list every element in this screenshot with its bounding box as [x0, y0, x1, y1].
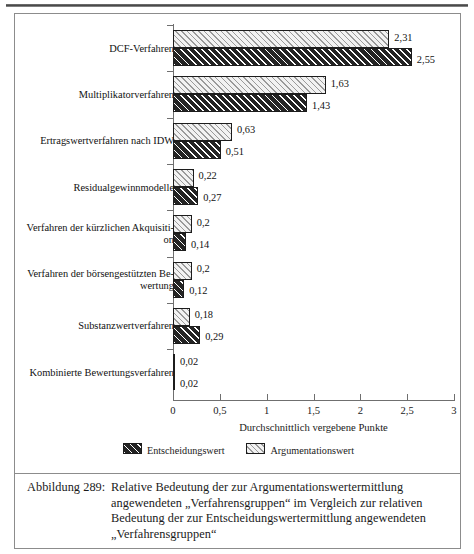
bar-argumentationswert [173, 215, 192, 233]
x-axis-tick-label: 1,5 [294, 405, 334, 416]
bar-entscheidungswert [173, 187, 198, 205]
bar-entscheidungswert [173, 94, 307, 112]
bar-argumentationswert [173, 262, 192, 280]
bar-entscheidungswert [173, 326, 200, 344]
legend-swatch-light [246, 443, 265, 454]
x-axis-title: Durchschnittlich vergebene Punkte [173, 422, 454, 433]
caption-line: angewendeten „Verfahrensgruppen“ im Verg… [111, 496, 451, 512]
caption: Abbildung 289: Relative Bedeutung der zu… [27, 480, 451, 542]
x-axis-tick [454, 394, 455, 401]
y-axis-tick [167, 118, 174, 119]
legend-item: Argumentationswert [246, 443, 354, 456]
category-label: DCF-Verfahren [4, 43, 174, 55]
figure-page: Durchschnittlich vergebene Punkte 00,511… [0, 0, 474, 554]
y-axis-tick [167, 303, 174, 304]
legend-item: Entscheidungswert [123, 443, 225, 456]
bar-entscheidungswert [173, 372, 175, 390]
bar-value-label-argumentationswert: 0,2 [197, 263, 210, 274]
category-label-line: Kombinierte Bewertungsverfahren [4, 367, 174, 379]
bar-entscheidungswert [173, 280, 184, 298]
category-label: Ertragswertverfahren nach IDW [4, 135, 174, 147]
bar-argumentationswert [173, 30, 389, 48]
category-label: Verfahren der börsengestützten Be-wertun… [4, 268, 174, 292]
x-axis-tick-label: 0,5 [200, 405, 240, 416]
bar-value-label-entscheidungswert: 0,29 [205, 331, 223, 342]
caption-line: Relative Bedeutung der zur Argumentation… [111, 480, 451, 496]
caption-label: Abbildung 289: [27, 480, 105, 494]
bar-value-label-entscheidungswert: 0,12 [189, 285, 207, 296]
category-label-line: on [4, 234, 174, 246]
x-axis-tick-label: 3 [434, 405, 474, 416]
category-label: Multiplikatorverfahren [4, 89, 174, 101]
legend-swatch-dark [123, 443, 142, 454]
category-label: Substanzwertverfahren [4, 320, 174, 332]
x-axis-tick [314, 394, 315, 401]
x-axis-tick [173, 394, 174, 401]
category-label: Verfahren der kürzlichen Akquisiti-on [4, 222, 174, 246]
y-axis-tick [167, 210, 174, 211]
category-label-line: Ertragswertverfahren nach IDW [4, 135, 174, 147]
x-axis-tick [220, 394, 221, 401]
bar-value-label-entscheidungswert: 0,51 [226, 146, 244, 157]
y-axis-tick [167, 257, 174, 258]
chart-frame: Durchschnittlich vergebene Punkte 00,511… [14, 13, 461, 474]
caption-frame: Abbildung 289: Relative Bedeutung der zu… [14, 474, 461, 549]
y-axis-tick [167, 71, 174, 72]
category-label-line: wertung [4, 280, 174, 292]
x-axis-tick-label: 1 [247, 405, 287, 416]
x-axis-tick [267, 394, 268, 401]
category-label-line: DCF-Verfahren [4, 43, 174, 55]
bar-argumentationswert [173, 169, 194, 187]
y-axis-tick [167, 25, 174, 26]
legend-label: Entscheidungswert [147, 445, 225, 456]
bar-value-label-argumentationswert: 2,31 [394, 32, 412, 43]
category-label: Kombinierte Bewertungsverfahren [4, 367, 174, 379]
bar-chart-plot: Durchschnittlich vergebene Punkte 00,511… [15, 14, 462, 475]
bar-value-label-entscheidungswert: 0,27 [203, 192, 221, 203]
page-header-rule [6, 4, 468, 7]
bar-entscheidungswert [173, 141, 221, 159]
bar-argumentationswert [173, 76, 326, 94]
bar-value-label-entscheidungswert: 1,43 [312, 100, 330, 111]
x-axis-tick [407, 394, 408, 401]
y-axis-tick [167, 164, 174, 165]
x-axis-tick-label: 0 [153, 405, 193, 416]
bar-argumentationswert [173, 123, 232, 141]
bar-value-label-entscheidungswert: 0,02 [180, 378, 198, 389]
x-axis-tick-label: 2,5 [387, 405, 427, 416]
category-label: Residualgewinnmodelle [4, 182, 174, 194]
bar-entscheidungswert [173, 48, 412, 66]
bar-value-label-argumentationswert: 0,22 [199, 170, 217, 181]
x-axis-tick-label: 2 [340, 405, 380, 416]
bar-value-label-argumentationswert: 0,2 [197, 217, 210, 228]
bar-entscheidungswert [173, 233, 186, 251]
y-axis-tick [167, 349, 174, 350]
category-label-line: Residualgewinnmodelle [4, 182, 174, 194]
chart-legend: EntscheidungswertArgumentationswert [15, 443, 462, 456]
caption-line: Bedeutung der zur Entscheidungswertermit… [111, 511, 451, 527]
legend-label: Argumentationswert [270, 445, 354, 456]
bar-argumentationswert [173, 354, 175, 372]
bar-value-label-argumentationswert: 0,18 [195, 309, 213, 320]
category-label-line: Multiplikatorverfahren [4, 89, 174, 101]
category-label-line: Substanzwertverfahren [4, 320, 174, 332]
bar-argumentationswert [173, 308, 190, 326]
bar-value-label-argumentationswert: 0,02 [180, 356, 198, 367]
caption-line: „Verfahrensgruppen“ [111, 527, 451, 543]
caption-body: Relative Bedeutung der zur Argumentation… [111, 480, 451, 542]
category-label-line: Verfahren der börsengestützten Be- [4, 268, 174, 280]
bar-value-label-argumentationswert: 0,63 [237, 124, 255, 135]
bar-value-label-entscheidungswert: 2,55 [417, 54, 435, 65]
category-label-line: Verfahren der kürzlichen Akquisiti- [4, 222, 174, 234]
x-axis-tick [360, 394, 361, 401]
bar-value-label-entscheidungswert: 0,14 [191, 239, 209, 250]
bar-value-label-argumentationswert: 1,63 [331, 78, 349, 89]
